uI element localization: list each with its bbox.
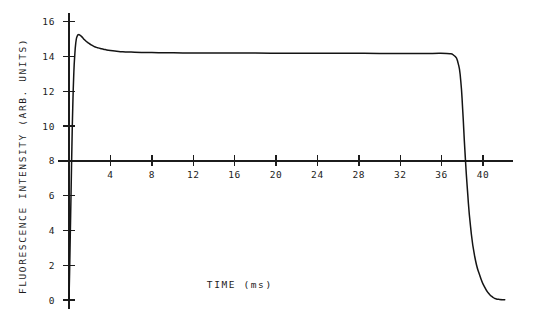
y-axis-tick-label: 12 [42, 86, 55, 97]
y-axis-tick-label: 2 [49, 260, 55, 271]
x-axis-tick-label: 24 [311, 169, 324, 180]
x-axis-tick-label: 20 [270, 169, 283, 180]
y-axis-title: FLUORESCENCE INTENSITY (ARB. UNITS) [17, 38, 28, 294]
y-axis-tick-labels: 0246810121416 [42, 16, 55, 305]
chart-canvas: 0246810121416 481216202428323640 TIME (m… [0, 0, 535, 332]
y-axis-tick-label: 14 [42, 51, 55, 62]
x-axis-tick-label: 8 [149, 169, 155, 180]
y-axis-tick-label: 0 [49, 295, 55, 306]
y-axis-tick-label: 16 [42, 16, 55, 27]
x-axis-tick-labels: 481216202428323640 [107, 169, 489, 180]
y-axis-tick-label: 8 [49, 155, 55, 166]
x-axis-tick-label: 28 [352, 169, 365, 180]
x-axis-tick-label: 4 [107, 169, 113, 180]
x-axis-tick-label: 36 [435, 169, 448, 180]
x-axis-tick-label: 32 [394, 169, 407, 180]
fluorescence-trace [69, 35, 505, 300]
y-axis-tick-label: 6 [49, 190, 55, 201]
fluorescence-chart-figure: 0246810121416 481216202428323640 TIME (m… [0, 0, 535, 332]
y-axis-tick-label: 10 [42, 121, 55, 132]
y-axis-tick-label: 4 [49, 225, 55, 236]
x-axis-tick-label: 16 [228, 169, 241, 180]
x-axis-tick-label: 40 [477, 169, 490, 180]
x-axis-tick-label: 12 [187, 169, 200, 180]
x-axis-title: TIME (ms) [207, 279, 273, 290]
